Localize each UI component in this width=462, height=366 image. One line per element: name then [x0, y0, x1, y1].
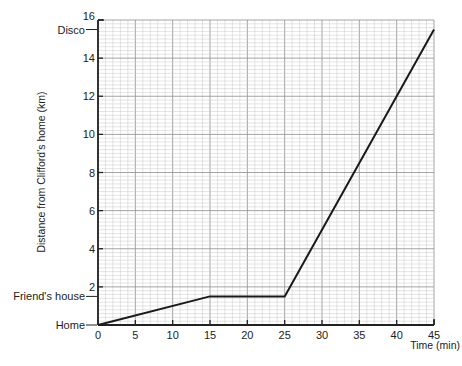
place-label: Disco [57, 24, 85, 36]
y-tick-label: 6 [89, 205, 95, 217]
y-tick-label: 14 [83, 52, 95, 64]
graph-paper-grid [98, 20, 434, 325]
x-axis-title: Time (min) [410, 339, 460, 351]
place-label: Friend's house [13, 290, 85, 302]
x-tick-label: 30 [316, 329, 328, 341]
x-tick-label: 15 [204, 329, 216, 341]
distance-time-chart: 051015202530354045 246810121416 HomeFrie… [0, 0, 462, 366]
place-annotations: HomeFriend's houseDisco [13, 24, 97, 331]
y-axis-ticks: 246810121416 [83, 10, 103, 293]
x-tick-label: 5 [132, 329, 138, 341]
y-tick-label: 12 [83, 90, 95, 102]
x-tick-label: 35 [353, 329, 365, 341]
y-tick-label: 10 [83, 128, 95, 140]
journey-line [98, 30, 434, 326]
x-tick-label: 20 [241, 329, 253, 341]
x-tick-label: 0 [95, 329, 101, 341]
x-tick-label: 25 [279, 329, 291, 341]
y-tick-label: 2 [89, 281, 95, 293]
y-tick-label: 8 [89, 167, 95, 179]
y-axis-title: Distance from Clifford's home (km) [35, 91, 47, 252]
place-label: Home [56, 319, 85, 331]
x-tick-label: 10 [167, 329, 179, 341]
y-tick-label: 16 [83, 10, 95, 22]
y-tick-label: 4 [89, 243, 95, 255]
x-tick-label: 40 [391, 329, 403, 341]
x-axis-ticks: 051015202530354045 [95, 320, 440, 341]
